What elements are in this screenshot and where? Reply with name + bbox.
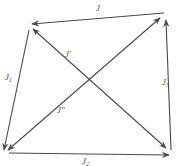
- edge-j-double-prime-arrow: [8, 18, 160, 150]
- edge-j-arrow: [32, 13, 164, 24]
- label-j-prime: J′: [65, 49, 72, 59]
- edge-j2-arrow: [9, 153, 169, 155]
- label-j1: J1: [5, 72, 12, 83]
- edge-j-prime-arrow: [33, 29, 166, 148]
- label-j-double-prime: J″: [57, 105, 65, 115]
- edge-j1-arrow: [4, 30, 29, 150]
- quadrilateral-diagram: J J1 J3 J2 J′ J″: [0, 0, 177, 166]
- label-j2: J2: [82, 156, 89, 166]
- label-j: J: [96, 3, 101, 13]
